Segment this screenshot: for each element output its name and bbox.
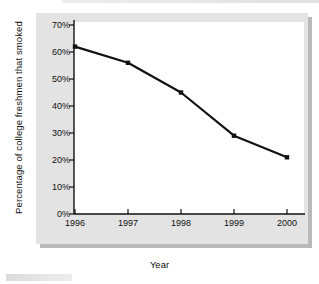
data-point-marker <box>126 61 130 65</box>
data-point-marker <box>179 90 183 94</box>
data-series-markers <box>73 44 289 159</box>
x-axis-ticks <box>75 209 287 214</box>
y-axis-ticks <box>69 25 74 214</box>
chart-canvas <box>0 0 319 284</box>
chart-figure: Percentage of college freshmen that smok… <box>0 0 319 284</box>
data-point-marker <box>285 155 289 159</box>
data-point-marker <box>232 134 236 138</box>
axis-lines <box>74 20 305 214</box>
page-bottom-smudge <box>6 274 72 281</box>
data-point-marker <box>73 44 77 48</box>
data-series-line <box>75 47 287 158</box>
